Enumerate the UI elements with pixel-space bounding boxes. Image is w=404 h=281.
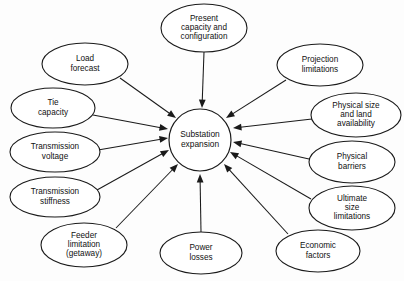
edge-projection-limitations-arrowhead — [226, 111, 235, 118]
edge-transmission-stiffness-arrowhead — [160, 150, 169, 157]
node-label-ultimate-size-limitations-line-0: Ultimate — [337, 194, 367, 203]
node-label-ultimate-size-limitations-line-1: size — [345, 203, 360, 212]
edge-economic-factors-line — [229, 169, 288, 234]
node-projection-limitations[interactable]: Projectionlimitations — [277, 44, 363, 86]
node-economic-factors[interactable]: Economicfactors — [276, 230, 360, 272]
node-label-transmission-stiffness-line-1: stiffness — [40, 197, 70, 206]
edge-transmission-voltage-line — [98, 139, 161, 150]
node-substation-expansion[interactable]: Substationexpansion — [169, 109, 231, 171]
node-present-capacity-and-configuration[interactable]: Presentcapacity andconfiguration — [161, 4, 247, 52]
node-label-projection-limitations-line-1: limitations — [302, 65, 338, 74]
diagram-canvas: Presentcapacity andconfigurationLoadfore… — [0, 0, 404, 281]
node-label-power-losses-line-0: Power — [189, 243, 212, 252]
node-label-feeder-limitation-getaway-line-2: (getaway) — [66, 250, 102, 259]
edge-load-forecast-arrowhead — [167, 110, 176, 118]
edge-power-losses-arrowhead — [197, 174, 204, 183]
node-label-physical-size-and-land-availability-line-1: and land — [340, 110, 372, 119]
edge-present-capacity-and-configuration-arrowhead — [199, 99, 206, 108]
edge-feeder-limitation-getaway-line — [116, 169, 173, 228]
node-label-load-forecast-line-1: forecast — [70, 64, 100, 73]
edge-physical-barriers-arrowhead — [233, 141, 242, 148]
edge-power-losses-line — [200, 181, 201, 232]
node-label-transmission-stiffness-line-0: Transmission — [31, 187, 80, 196]
node-label-present-capacity-and-configuration-line-1: capacity and — [181, 23, 227, 32]
node-label-tie-capacity-line-1: capacity — [38, 108, 69, 117]
node-label-ultimate-size-limitations-line-2: limitations — [334, 213, 370, 222]
hub-layer: Substationexpansion — [169, 109, 231, 171]
hub-label-substation-expansion: Substationexpansion — [180, 130, 220, 149]
node-physical-size-and-land-availability[interactable]: Physical sizeand landavailability — [311, 93, 401, 137]
edge-projection-limitations-line — [232, 80, 286, 114]
node-label-feeder-limitation-getaway: Feederlimitation(getaway) — [66, 231, 102, 259]
node-label-economic-factors-line-1: factors — [306, 251, 331, 260]
node-label-feeder-limitation-getaway-line-1: limitation — [68, 240, 101, 249]
node-label-power-losses-line-1: losses — [189, 253, 212, 262]
influence-diagram: Presentcapacity andconfigurationLoadfore… — [0, 0, 404, 281]
node-label-tie-capacity-line-0: Tie — [47, 98, 59, 107]
node-load-forecast[interactable]: Loadforecast — [42, 43, 128, 85]
node-label-economic-factors-line-0: Economic — [300, 241, 336, 250]
node-label-physical-size-and-land-availability-line-0: Physical size — [332, 101, 380, 110]
node-label-feeder-limitation-getaway-line-0: Feeder — [71, 231, 97, 240]
node-power-losses[interactable]: Powerlosses — [160, 232, 242, 274]
node-transmission-voltage[interactable]: Transmissionvoltage — [10, 132, 100, 172]
edge-transmission-voltage-arrowhead — [159, 136, 168, 143]
node-label-present-capacity-and-configuration-line-0: Present — [190, 14, 219, 23]
edge-physical-barriers-line — [240, 144, 309, 159]
node-label-transmission-voltage-line-0: Transmission — [31, 142, 80, 151]
node-label-power-losses: Powerlosses — [189, 243, 212, 261]
node-label-physical-barriers-line-0: Physical — [337, 152, 368, 161]
node-tie-capacity[interactable]: Tiecapacity — [11, 88, 95, 128]
node-ultimate-size-limitations[interactable]: Ultimatesizelimitations — [309, 186, 395, 230]
hub-label-substation-expansion-line-1: expansion — [181, 139, 220, 149]
node-feeder-limitation-getaway[interactable]: Feederlimitation(getaway) — [41, 223, 127, 267]
edge-tie-capacity-line — [93, 115, 161, 128]
node-label-projection-limitations: Projectionlimitations — [302, 55, 339, 73]
node-label-physical-barriers-line-1: barriers — [338, 162, 366, 171]
node-label-load-forecast-line-0: Load — [76, 54, 95, 63]
node-label-projection-limitations-line-0: Projection — [302, 55, 339, 64]
edge-load-forecast-line — [120, 78, 170, 114]
edge-tie-capacity-arrowhead — [159, 124, 168, 131]
node-physical-barriers[interactable]: Physicalbarriers — [309, 141, 395, 183]
edge-ultimate-size-limitations-line — [236, 156, 311, 199]
edge-present-capacity-and-configuration-line — [202, 52, 204, 101]
node-transmission-stiffness[interactable]: Transmissionstiffness — [10, 177, 100, 217]
edge-physical-size-and-land-availability-line — [240, 119, 312, 127]
node-label-transmission-voltage-line-1: voltage — [42, 152, 69, 161]
node-label-physical-size-and-land-availability-line-2: availability — [337, 120, 376, 129]
edge-transmission-stiffness-line — [97, 154, 163, 190]
edge-physical-size-and-land-availability-arrowhead — [233, 124, 242, 131]
edge-ultimate-size-limitations-arrowhead — [230, 152, 239, 159]
node-label-present-capacity-and-configuration-line-2: configuration — [181, 33, 228, 42]
node-label-physical-barriers: Physicalbarriers — [337, 152, 368, 170]
